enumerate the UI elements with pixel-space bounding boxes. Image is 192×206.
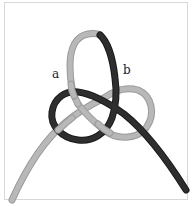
label-a: a bbox=[52, 68, 59, 80]
label-b: b bbox=[123, 64, 131, 76]
knot-drawing bbox=[0, 0, 192, 206]
